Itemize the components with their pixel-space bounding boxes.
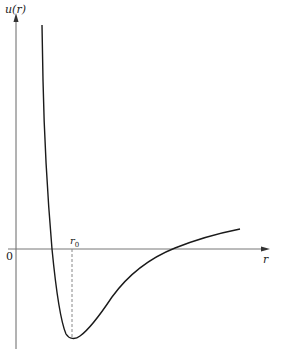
r0-label-subscript: 0	[75, 241, 79, 249]
origin-label: 0	[6, 251, 13, 262]
x-axis-label: r	[263, 254, 268, 265]
chart-canvas	[0, 0, 287, 349]
x-axis-arrow-icon	[261, 247, 270, 252]
y-axis-label: u(r)	[5, 4, 26, 15]
r0-label: r0	[70, 236, 79, 249]
